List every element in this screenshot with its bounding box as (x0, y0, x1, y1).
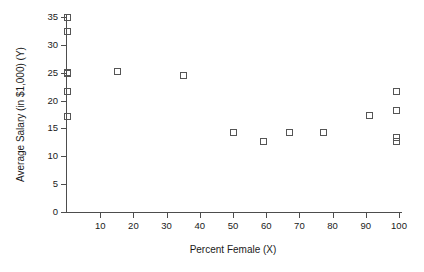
y-axis-tick-label: 15 (36, 123, 58, 133)
y-axis-tick (61, 184, 66, 185)
x-axis-tick (233, 213, 234, 218)
x-axis-tick-label: 20 (118, 220, 148, 231)
y-axis-tick-label: 30 (36, 40, 58, 50)
data-point (64, 88, 71, 95)
y-axis-tick (61, 212, 66, 213)
y-axis-tick (61, 128, 66, 129)
x-axis-tick (200, 213, 201, 218)
x-axis-tick (299, 213, 300, 218)
data-point (180, 72, 187, 79)
x-axis-tick-label: 90 (351, 220, 381, 231)
data-point (64, 14, 71, 21)
x-axis-tick-label: 10 (85, 220, 115, 231)
data-point (64, 113, 71, 120)
x-axis-tick (167, 213, 168, 218)
y-axis-tick-label: 35 (36, 12, 58, 22)
y-axis-title: Average Salary (in $1,000) (Y) (14, 17, 28, 212)
x-axis-line (66, 212, 402, 213)
y-axis-tick-label: 25 (36, 68, 58, 78)
y-axis-tick (61, 45, 66, 46)
data-point (393, 88, 400, 95)
x-axis-tick (266, 213, 267, 218)
x-axis-tick-label: 100 (384, 220, 414, 231)
x-axis-tick (366, 213, 367, 218)
plot-area (67, 17, 399, 212)
x-axis-tick-label: 40 (185, 220, 215, 231)
y-axis-tick-label: 20 (36, 96, 58, 106)
y-axis-tick (61, 101, 66, 102)
x-axis-tick (333, 213, 334, 218)
x-axis-tick-label: 70 (284, 220, 314, 231)
x-axis-tick (133, 213, 134, 218)
y-axis-tick-labels: 05101520253035 (34, 0, 58, 272)
y-axis-tick-label: 10 (36, 151, 58, 161)
data-point (366, 112, 373, 119)
data-point (114, 68, 121, 75)
x-axis-tick-label: 80 (318, 220, 348, 231)
data-point (286, 129, 293, 136)
data-point (64, 70, 71, 77)
x-axis-tick-label: 60 (251, 220, 281, 231)
data-point (230, 129, 237, 136)
x-axis-title: Percent Female (X) (67, 244, 399, 256)
data-point (393, 138, 400, 145)
data-point (393, 107, 400, 114)
data-point (320, 129, 327, 136)
x-axis-tick (399, 213, 400, 218)
y-axis-tick (61, 156, 66, 157)
y-axis-tick-label: 0 (36, 207, 58, 217)
x-axis-tick (100, 213, 101, 218)
data-point (64, 28, 71, 35)
x-axis-tick-label: 30 (152, 220, 182, 231)
x-axis-tick-label: 50 (218, 220, 248, 231)
scatter-plot-figure: Average Salary (in $1,000) (Y) 051015202… (0, 0, 424, 272)
y-axis-tick-label: 5 (36, 179, 58, 189)
data-point (260, 138, 267, 145)
